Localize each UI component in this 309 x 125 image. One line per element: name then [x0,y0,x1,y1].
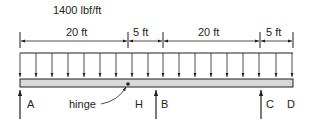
point-label-d: D [287,98,295,110]
point-label-h: H [135,98,143,110]
beam-diagram: 1400 lbf/ft 20 ft 5 ft 20 ft 5 ft [0,0,309,125]
hinge-leader [101,87,126,104]
dimension-label-hinge-b: 5 ft [133,26,148,38]
hinge-label: hinge [69,98,96,110]
beam [20,79,293,87]
support-label-a: A [27,98,35,110]
distributed-load-arrows [20,53,292,77]
dimension-ticks [20,32,293,48]
dimension-label-cd: 5 ft [266,26,281,38]
support-label-b: B [161,98,168,110]
hinge-dot [126,82,130,86]
load-label: 1400 lbf/ft [53,4,101,16]
dimension-label-bc: 20 ft [198,26,219,38]
dimension-label-ab: 20 ft [66,26,87,38]
support-label-c: C [266,98,274,110]
